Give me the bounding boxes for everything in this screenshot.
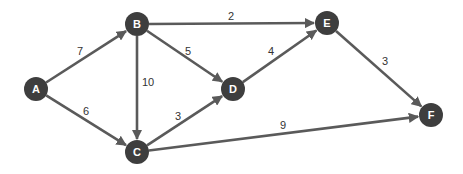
node-e: E bbox=[315, 11, 339, 35]
edge-b-e bbox=[149, 23, 314, 24]
edge-weight-label: 9 bbox=[280, 119, 286, 131]
graph-diagram: 7625103439 ABCDEF bbox=[0, 0, 463, 174]
edge-weight-label: 3 bbox=[382, 55, 388, 67]
edge-weight-label: 3 bbox=[175, 110, 181, 122]
node-d: D bbox=[221, 77, 245, 101]
weights-layer: 7625103439 bbox=[77, 10, 388, 131]
node-label: F bbox=[428, 109, 435, 121]
edge-weight-label: 5 bbox=[185, 45, 191, 57]
edge-weight-label: 4 bbox=[268, 45, 274, 57]
edge-c-d bbox=[147, 96, 222, 145]
node-label: D bbox=[229, 83, 237, 95]
node-label: B bbox=[133, 18, 141, 30]
node-f: F bbox=[419, 103, 443, 127]
edge-weight-label: 2 bbox=[228, 10, 234, 22]
edge-weight-label: 7 bbox=[77, 45, 83, 57]
node-label: E bbox=[323, 17, 330, 29]
node-label: C bbox=[133, 146, 141, 158]
node-c: C bbox=[125, 140, 149, 164]
edge-a-b bbox=[46, 31, 126, 82]
node-a: A bbox=[24, 77, 48, 101]
edge-weight-label: 10 bbox=[142, 76, 154, 88]
edge-d-e bbox=[243, 30, 317, 82]
edge-e-f bbox=[336, 31, 421, 106]
node-label: A bbox=[32, 83, 40, 95]
edge-weight-label: 6 bbox=[83, 105, 89, 117]
node-b: B bbox=[125, 12, 149, 36]
edge-a-c bbox=[46, 95, 126, 145]
